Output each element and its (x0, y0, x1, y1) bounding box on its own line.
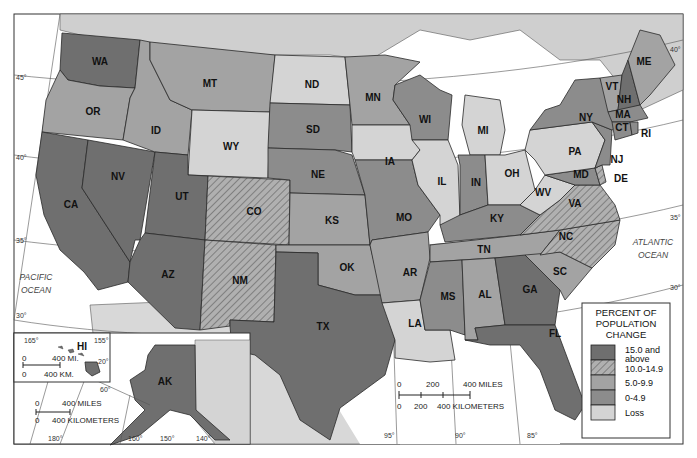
svg-text:0: 0 (397, 402, 402, 411)
svg-text:KS: KS (325, 215, 339, 226)
svg-text:MI: MI (477, 125, 488, 136)
svg-text:60°: 60° (100, 386, 111, 393)
svg-text:0: 0 (22, 354, 27, 363)
svg-text:30°: 30° (670, 284, 681, 291)
svg-text:MD: MD (573, 169, 589, 180)
svg-text:TN: TN (477, 244, 490, 255)
svg-text:OK: OK (340, 262, 356, 273)
svg-text:0: 0 (35, 416, 40, 425)
svg-text:40°: 40° (16, 154, 27, 161)
label-wa: WA (92, 56, 108, 67)
svg-text:WV: WV (535, 187, 551, 198)
svg-text:45°: 45° (16, 74, 27, 81)
svg-text:AL: AL (478, 289, 491, 300)
legend-swatch-loss (591, 405, 615, 420)
svg-text:NM: NM (232, 275, 248, 286)
svg-text:NC: NC (559, 231, 573, 242)
atlantic-ocean-label: ATLANTIC (632, 237, 674, 247)
svg-text:KY: KY (490, 213, 504, 224)
svg-text:0: 0 (22, 370, 27, 379)
svg-text:0: 0 (35, 399, 40, 408)
svg-text:MT: MT (203, 78, 217, 89)
svg-text:NH: NH (617, 94, 631, 105)
svg-text:DE: DE (614, 173, 628, 184)
svg-text:0-4.9: 0-4.9 (625, 393, 646, 403)
svg-text:OH: OH (505, 168, 520, 179)
legend-swatch-0-4 (591, 390, 615, 405)
svg-text:155°: 155° (94, 337, 109, 344)
svg-text:PA: PA (568, 146, 581, 157)
svg-text:400 KILOMETERS: 400 KILOMETERS (52, 416, 119, 425)
svg-text:IL: IL (438, 176, 447, 187)
svg-text:OR: OR (86, 106, 102, 117)
svg-text:RI: RI (641, 128, 651, 139)
svg-text:200: 200 (426, 380, 440, 389)
legend-swatch-10-14 (591, 360, 615, 375)
svg-text:400 MILES: 400 MILES (463, 380, 503, 389)
svg-text:ME: ME (637, 56, 652, 67)
svg-text:FL: FL (549, 328, 561, 339)
hawaii-inset: HI 165° 155° 20° 0 400 MI. 0 400 KM. (14, 333, 110, 382)
svg-text:CO: CO (247, 206, 262, 217)
svg-text:10.0-14.9: 10.0-14.9 (625, 364, 663, 374)
svg-text:AK: AK (158, 376, 173, 387)
svg-text:400 MILES: 400 MILES (62, 399, 102, 408)
svg-text:LA: LA (408, 318, 421, 329)
svg-text:ND: ND (305, 79, 319, 90)
svg-text:OCEAN: OCEAN (21, 285, 52, 295)
svg-text:SC: SC (553, 266, 567, 277)
svg-text:90°: 90° (455, 432, 466, 439)
svg-text:GA: GA (523, 284, 538, 295)
svg-text:AZ: AZ (161, 269, 174, 280)
svg-text:CT: CT (615, 122, 628, 133)
svg-text:OCEAN: OCEAN (638, 250, 669, 260)
svg-text:200: 200 (414, 402, 428, 411)
svg-text:180°: 180° (48, 435, 63, 442)
svg-text:35°: 35° (670, 214, 681, 221)
svg-text:NJ: NJ (611, 154, 624, 165)
svg-text:95°: 95° (384, 432, 395, 439)
svg-text:20°: 20° (98, 358, 109, 365)
svg-text:400 KM.: 400 KM. (44, 370, 74, 379)
svg-text:ID: ID (151, 125, 161, 136)
svg-text:0: 0 (397, 380, 402, 389)
pacific-ocean-label: PACIFIC (20, 272, 54, 282)
svg-text:UT: UT (175, 191, 188, 202)
svg-text:35°: 35° (16, 237, 27, 244)
svg-text:WY: WY (223, 141, 239, 152)
svg-text:150°: 150° (160, 435, 175, 442)
svg-text:MN: MN (365, 92, 381, 103)
svg-text:NE: NE (311, 169, 325, 180)
svg-text:MA: MA (615, 109, 631, 120)
svg-text:140°: 140° (196, 435, 211, 442)
svg-text:IA: IA (385, 156, 395, 167)
svg-text:160°: 160° (128, 435, 143, 442)
population-change-map: WA OR CA NV ID MT WY UT CO AZ NM ND SD N… (0, 0, 697, 458)
svg-text:85°: 85° (527, 432, 538, 439)
svg-text:HI: HI (77, 341, 87, 352)
svg-text:400 MI.: 400 MI. (52, 354, 79, 363)
svg-text:POPULATION: POPULATION (596, 318, 657, 329)
svg-text:IN: IN (471, 177, 481, 188)
svg-text:CHANGE: CHANGE (606, 329, 647, 340)
svg-text:NY: NY (579, 112, 593, 123)
svg-text:165°: 165° (24, 337, 39, 344)
svg-text:400 KILOMETERS: 400 KILOMETERS (437, 402, 504, 411)
svg-text:Loss: Loss (625, 408, 645, 418)
svg-text:MS: MS (441, 291, 456, 302)
svg-text:PERCENT OF: PERCENT OF (595, 307, 656, 318)
svg-text:40°: 40° (670, 46, 681, 53)
svg-text:TX: TX (317, 321, 330, 332)
svg-text:CA: CA (64, 199, 78, 210)
svg-text:NV: NV (111, 171, 125, 182)
svg-text:SD: SD (306, 124, 320, 135)
legend-swatch-5-9 (591, 375, 615, 390)
svg-text:MO: MO (396, 212, 412, 223)
legend: PERCENT OF POPULATION CHANGE 15.0 and ab… (582, 303, 670, 438)
svg-text:5.0-9.9: 5.0-9.9 (625, 378, 653, 388)
svg-text:VT: VT (606, 81, 619, 92)
state-ia[interactable] (352, 125, 420, 160)
svg-text:AR: AR (403, 267, 418, 278)
legend-swatch-15plus (591, 345, 615, 360)
svg-text:30°: 30° (16, 312, 27, 319)
